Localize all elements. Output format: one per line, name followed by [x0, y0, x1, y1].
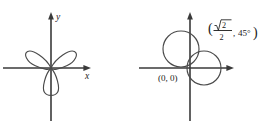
right-y-axis-arrowhead [187, 12, 193, 20]
left-y-axis-label: y [55, 12, 61, 22]
point-label-close-paren: ) [253, 25, 258, 41]
rose-petal-upper-right [51, 51, 76, 69]
point-label-separator: , [233, 28, 235, 38]
right-x-axis-arrowhead [226, 65, 234, 71]
intersection-point-label: ( 2 2 , 45° ) [208, 20, 258, 42]
figures-svg: y x (0, 0) ( [0, 0, 267, 128]
point-label-angle: 45° [238, 28, 251, 38]
figure-panel: y x (0, 0) ( [0, 0, 267, 128]
point-label-radicand: 2 [222, 21, 226, 30]
right-figure-group: (0, 0) ( 2 2 , 45° ) [139, 12, 258, 121]
left-x-axis-label: x [84, 71, 90, 81]
point-label-open-paren: ( [208, 21, 213, 37]
rose-petal-upper-left [26, 51, 51, 69]
left-x-axis [3, 65, 91, 71]
left-y-axis [48, 12, 54, 121]
left-y-axis-arrowhead [48, 12, 54, 20]
upper-left-circle [163, 31, 199, 67]
right-y-axis [187, 12, 193, 121]
origin-point-label: (0, 0) [158, 73, 178, 83]
point-label-denominator: 2 [220, 33, 224, 42]
left-figure-group: y x [3, 12, 91, 121]
